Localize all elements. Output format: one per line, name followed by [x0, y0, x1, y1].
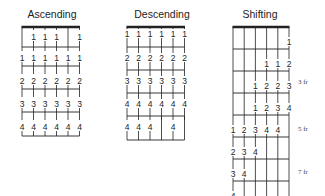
finger-number: 1 [43, 32, 48, 42]
finger-number: 1 [77, 53, 82, 63]
finger-number: 4 [136, 122, 141, 132]
finger-number: 3 [287, 81, 292, 91]
fretboard-diagrams: 1111111111222222333333444444111111222222… [0, 0, 325, 196]
finger-number: 4 [20, 122, 25, 132]
finger-number: 3 [231, 169, 236, 179]
finger-number: 4 [125, 99, 130, 109]
finger-number: 2 [264, 81, 269, 91]
finger-number: 4 [171, 99, 176, 109]
finger-number: 1 [125, 29, 130, 39]
finger-number: 1 [231, 125, 236, 135]
finger-number: 3 [20, 99, 25, 109]
finger-number: 2 [159, 53, 164, 63]
finger-number: 4 [31, 122, 36, 132]
finger-number: 3 [43, 99, 48, 109]
finger-number: 1 [148, 29, 153, 39]
finger-number: 3 [253, 125, 258, 135]
finger-number: 4 [148, 99, 153, 109]
finger-number: 3 [159, 76, 164, 86]
finger-number: 4 [125, 122, 130, 132]
finger-number: 4 [182, 99, 187, 109]
finger-number: 4 [54, 122, 59, 132]
finger-number: 1 [253, 81, 258, 91]
finger-number: 3 [77, 99, 82, 109]
finger-number: 3 [242, 147, 247, 157]
finger-number: 1 [287, 37, 292, 47]
finger-number: 1 [31, 53, 36, 63]
finger-number: 3 [136, 76, 141, 86]
finger-number: 4 [253, 147, 258, 157]
finger-number: 3 [182, 76, 187, 86]
finger-number: 2 [136, 53, 141, 63]
finger-number: 2 [264, 103, 269, 113]
finger-number: 4 [171, 122, 176, 132]
finger-number: 4 [43, 122, 48, 132]
finger-number: 4 [159, 99, 164, 109]
finger-number: 1 [275, 59, 280, 69]
finger-number: 4 [77, 122, 82, 132]
finger-number: 2 [231, 147, 236, 157]
finger-number: 4 [275, 125, 280, 135]
finger-number: 3 [54, 99, 59, 109]
finger-number: 4 [287, 103, 292, 113]
finger-number: 4 [264, 125, 269, 135]
finger-number: 2 [242, 125, 247, 135]
finger-number: 3 [31, 99, 36, 109]
finger-number: 3 [171, 76, 176, 86]
finger-number: 1 [264, 59, 269, 69]
finger-number: 4 [66, 122, 71, 132]
finger-number: 2 [148, 53, 153, 63]
finger-number: 1 [31, 32, 36, 42]
finger-number: 1 [54, 32, 59, 42]
finger-number: 1 [66, 53, 71, 63]
finger-number: 2 [287, 59, 292, 69]
finger-number: 2 [182, 53, 187, 63]
finger-number: 2 [54, 76, 59, 86]
finger-number: 1 [159, 29, 164, 39]
finger-number: 2 [171, 53, 176, 63]
finger-number: 3 [148, 76, 153, 86]
finger-number: 3 [66, 99, 71, 109]
finger-number: 4 [231, 191, 236, 196]
finger-number: 1 [136, 29, 141, 39]
finger-number: 1 [182, 29, 187, 39]
finger-number: 2 [20, 76, 25, 86]
finger-number: 4 [242, 169, 247, 179]
finger-number: 2 [43, 76, 48, 86]
finger-number: 1 [253, 103, 258, 113]
finger-number: 3 [275, 103, 280, 113]
finger-number: 4 [148, 122, 153, 132]
finger-number: 1 [171, 29, 176, 39]
finger-number: 2 [66, 76, 71, 86]
finger-number: 2 [31, 76, 36, 86]
finger-number: 1 [54, 53, 59, 63]
finger-number: 2 [77, 76, 82, 86]
finger-number: 1 [20, 53, 25, 63]
finger-number: 1 [43, 53, 48, 63]
finger-number: 2 [125, 53, 130, 63]
finger-number: 2 [275, 81, 280, 91]
finger-number: 3 [125, 76, 130, 86]
finger-number: 4 [136, 99, 141, 109]
finger-number: 1 [77, 32, 82, 42]
